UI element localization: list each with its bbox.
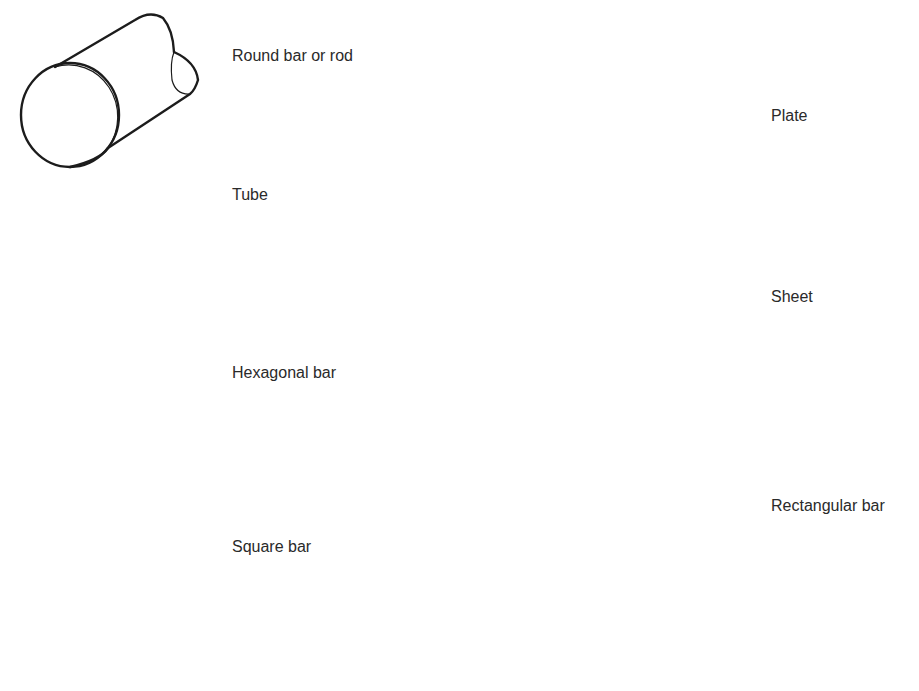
stock-shapes-diagram [0,0,919,691]
label-plate: Plate [771,108,807,124]
label-rectangular-bar: Rectangular bar [771,498,885,514]
label-sheet: Sheet [771,289,813,305]
label-hexagonal-bar: Hexagonal bar [232,365,336,381]
round-bar-shape [21,14,198,167]
label-tube: Tube [232,187,268,203]
label-round-bar: Round bar or rod [232,48,353,64]
label-square-bar: Square bar [232,539,311,555]
